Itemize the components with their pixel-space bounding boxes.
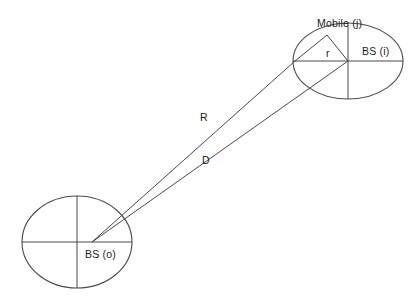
segment-mobile-to-edge bbox=[295, 35, 327, 61]
segment-distance-R bbox=[92, 61, 295, 242]
label-distance-R: R bbox=[200, 112, 208, 123]
diagram-vector-layer bbox=[0, 0, 415, 297]
segment-distance-D bbox=[92, 61, 348, 242]
label-bs-o: BS (o) bbox=[85, 249, 116, 260]
label-radius-r: r bbox=[326, 48, 330, 59]
label-distance-D: D bbox=[202, 155, 210, 166]
label-mobile-j: Mobile (j) bbox=[317, 18, 362, 29]
segment-radius-r bbox=[327, 35, 348, 61]
diagram-canvas: Mobile (j) BS (i) r BS (o) R D bbox=[0, 0, 415, 297]
label-bs-i: BS (i) bbox=[362, 46, 389, 57]
cell-bs-o-group bbox=[22, 196, 132, 288]
